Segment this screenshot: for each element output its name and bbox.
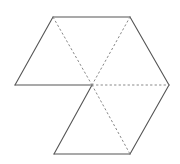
fold-line-C-BR [92, 85, 130, 154]
edge-BL-C [54, 85, 92, 154]
fold-line-C-TL [53, 17, 92, 85]
edge-TR-R [130, 17, 169, 85]
hexagon-net-diagram [0, 0, 180, 164]
edge-R-BR [130, 85, 169, 154]
edge-L-TL [15, 17, 53, 85]
fold-line-C-TR [92, 17, 130, 85]
